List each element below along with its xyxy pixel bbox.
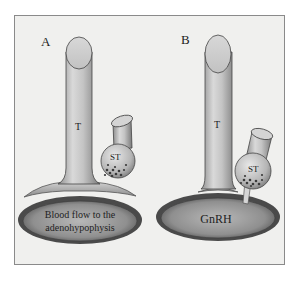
figure: A T ST Blood flow to the adenohypophysis… <box>0 0 297 286</box>
panel-a-target-text-1: Blood flow to the <box>45 209 116 220</box>
panel-a-terminal-label: ST <box>110 152 121 162</box>
panel-a-tanycyte-top <box>66 37 92 69</box>
panel-b-tanycyte-label: T <box>214 119 220 130</box>
panel-b-terminal-label: ST <box>248 164 259 174</box>
panel-a-tanycyte-label: T <box>75 121 81 132</box>
panel-a-target-text-2: adenohypophysis <box>45 222 115 233</box>
panel-b-target-text: GnRH <box>200 212 232 226</box>
panel-a-label: A <box>41 34 51 49</box>
panel-b-tanycyte-top <box>205 35 231 73</box>
panel-b-label: B <box>181 32 190 47</box>
panel-a-portal-vessel-inner <box>23 201 137 241</box>
